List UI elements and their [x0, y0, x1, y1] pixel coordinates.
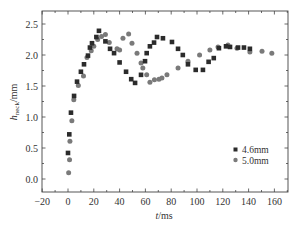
square-data-point — [108, 47, 113, 52]
circle-data-point — [269, 51, 274, 56]
square-data-point — [90, 41, 95, 46]
x-axis-title: t/ms — [155, 210, 172, 221]
y-tick-label: 2.0 — [26, 50, 39, 61]
square-data-point — [242, 45, 247, 50]
circle-data-point — [207, 48, 212, 53]
square-data-point — [181, 53, 186, 58]
legend-item-5-0mm: 5.0mm — [233, 156, 269, 166]
circle-data-point — [69, 118, 74, 123]
square-data-point — [66, 151, 71, 156]
x-tick-label: 80 — [166, 196, 176, 207]
square-data-point — [72, 94, 77, 99]
square-data-point — [201, 68, 206, 73]
circle-data-point — [147, 80, 152, 85]
square-data-point — [97, 29, 102, 34]
square-data-point — [170, 40, 175, 45]
circle-data-point — [260, 49, 265, 54]
square-data-point — [133, 81, 138, 86]
square-data-point — [206, 60, 211, 65]
square-data-point — [248, 47, 253, 52]
circle-data-point — [120, 36, 125, 41]
square-data-point — [176, 47, 181, 52]
circle-marker-icon — [233, 158, 237, 162]
square-data-point — [75, 79, 80, 84]
legend-label: 5.0mm — [242, 156, 269, 166]
legend-item-4-6mm: 4.6mm — [234, 145, 270, 155]
circle-data-point — [152, 77, 157, 82]
square-data-point — [186, 62, 191, 67]
square-data-point — [236, 45, 241, 50]
y-tick-label: 1.0 — [26, 112, 39, 123]
square-data-point — [152, 40, 157, 45]
circle-data-point — [103, 32, 108, 37]
square-marker-icon — [234, 148, 238, 152]
square-data-point — [228, 45, 233, 50]
square-data-point — [148, 44, 153, 49]
square-data-point — [86, 53, 91, 58]
x-tick-label: 40 — [115, 196, 125, 207]
square-data-point — [211, 56, 216, 61]
square-data-point — [144, 51, 149, 56]
square-data-point — [193, 68, 198, 73]
legend: 4.6mm 5.0mm — [233, 145, 269, 166]
square-data-point — [155, 35, 160, 40]
circle-data-point — [159, 75, 164, 80]
x-tick-label: 140 — [241, 196, 256, 207]
circle-data-point — [197, 53, 202, 58]
square-data-point — [143, 59, 148, 64]
circle-data-point — [135, 51, 140, 56]
y-tick-label: 1.5 — [26, 81, 39, 92]
square-data-point — [161, 36, 166, 41]
square-data-point — [139, 73, 144, 78]
scatter-chart: −20020406080100120140160 0.00.51.01.52.0… — [0, 0, 294, 229]
circle-data-point — [140, 66, 145, 71]
circle-data-point — [144, 72, 149, 77]
square-data-point — [88, 45, 93, 50]
circle-data-point — [126, 31, 131, 36]
square-data-point — [82, 62, 87, 67]
y-tick-label: 0.5 — [26, 143, 39, 154]
y-axis-title: hneck/mm — [8, 84, 21, 121]
square-data-point — [112, 51, 117, 56]
square-data-point — [117, 60, 122, 65]
y-tick-label: 0.0 — [26, 174, 39, 185]
x-tick-label: 20 — [89, 196, 99, 207]
square-data-point — [124, 69, 129, 74]
square-data-point — [79, 69, 84, 74]
legend-label: 4.6mm — [242, 145, 269, 155]
circle-data-point — [67, 157, 72, 162]
circle-data-point — [67, 139, 72, 144]
y-tick-label: 2.5 — [26, 19, 39, 30]
circle-data-point — [164, 72, 169, 77]
circle-data-point — [66, 170, 71, 175]
x-tick-label: 0 — [66, 196, 71, 207]
square-data-point — [224, 44, 229, 49]
x-tick-label: 100 — [190, 196, 205, 207]
square-data-point — [69, 110, 74, 115]
circle-data-point — [117, 48, 122, 53]
square-data-point — [217, 46, 222, 51]
circle-data-point — [176, 66, 181, 71]
circle-data-point — [129, 41, 134, 46]
x-tick-label: 120 — [215, 196, 230, 207]
x-tick-label: −20 — [34, 196, 50, 207]
circle-data-point — [81, 74, 86, 79]
square-data-point — [94, 35, 99, 40]
x-tick-label: 160 — [267, 196, 282, 207]
square-data-point — [103, 39, 108, 44]
x-tick-label: 60 — [140, 196, 150, 207]
square-data-point — [67, 132, 72, 137]
